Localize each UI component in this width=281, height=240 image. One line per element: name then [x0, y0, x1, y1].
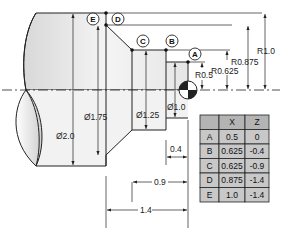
table-header-text: X: [229, 117, 235, 127]
point-label-a: A: [189, 48, 201, 60]
table-cell-text: 1.0: [226, 190, 238, 200]
table-cell-text: -1.4: [250, 175, 265, 185]
dim-r0-625: R0.625: [211, 66, 239, 76]
dim-dia-1-25: Ø1.25: [136, 110, 159, 120]
svg-text:D: D: [115, 15, 121, 24]
svg-text:E: E: [90, 15, 96, 24]
table-cell-text: E: [207, 190, 213, 200]
dim-r0-5: R0.5: [195, 70, 213, 80]
table-cell-text: A: [207, 132, 213, 142]
point-label-b: B: [166, 35, 178, 47]
table-cell-text: -0.9: [250, 161, 265, 171]
point-label-c: C: [137, 35, 149, 47]
dim-1-4: 1.4: [140, 205, 152, 215]
svg-text:B: B: [169, 37, 175, 46]
part-lower-profile: [28, 90, 188, 166]
svg-text:C: C: [140, 37, 146, 46]
table-cell-text: 0: [255, 132, 260, 142]
table-cell-text: 0.875: [221, 175, 243, 185]
dim-0-9: 0.9: [154, 177, 166, 187]
table-cell-text: 0.5: [226, 132, 238, 142]
table-cell-text: -0.4: [250, 146, 265, 156]
point-label-d: D: [112, 13, 124, 25]
table-cell-text: 0.625: [221, 161, 243, 171]
dim-r1-0: R1.0: [257, 46, 275, 56]
dim-dia-2-0: Ø2.0: [56, 131, 75, 141]
point-label-e: E: [87, 13, 99, 25]
origin-symbol: [179, 81, 197, 99]
dim-dia-1-75: Ø1.75: [84, 112, 107, 122]
dim-0-4: 0.4: [170, 144, 182, 154]
table-cell-text: -1.4: [250, 190, 265, 200]
table-cell-text: 0.625: [221, 146, 243, 156]
table-header-cell: [200, 115, 219, 130]
table-cell-text: B: [207, 146, 213, 156]
table-cell-text: C: [206, 161, 212, 171]
coordinate-table: XZA0.50B0.625-0.4C0.625-0.9D0.875-1.4E1.…: [200, 115, 269, 202]
table-header-text: Z: [254, 117, 259, 127]
svg-text:A: A: [192, 50, 198, 59]
part-drawing: R1.0 R0.875 R0.625 R0.5 Ø2.0 Ø1.75 Ø1.25…: [0, 0, 281, 240]
dim-dia-1-0: Ø1.0: [167, 102, 186, 112]
table-cell-text: D: [206, 175, 212, 185]
